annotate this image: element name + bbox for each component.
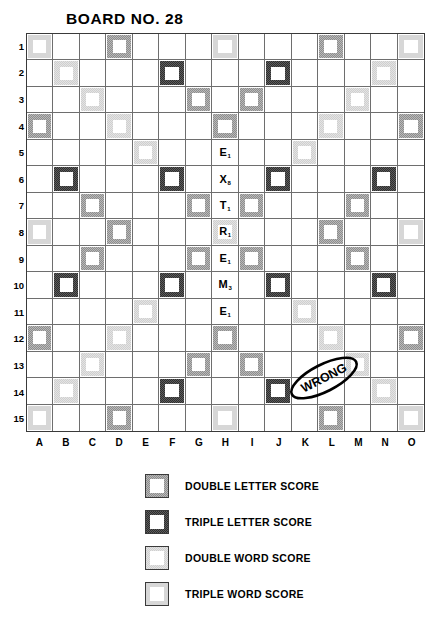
board-cell-F3[interactable]	[159, 87, 185, 113]
board-cell-J9[interactable]	[265, 246, 291, 272]
board-cell-D4[interactable]	[106, 113, 132, 139]
board-cell-K14[interactable]	[292, 378, 318, 404]
board-cell-E5[interactable]	[133, 140, 159, 166]
board-cell-F5[interactable]	[159, 140, 185, 166]
board-cell-M14[interactable]	[345, 378, 371, 404]
board-cell-F7[interactable]	[159, 193, 185, 219]
board-cell-L1[interactable]	[318, 34, 344, 60]
board-cell-F10[interactable]	[159, 272, 185, 298]
letter-tile-H9[interactable]: E1	[219, 253, 230, 264]
board-cell-C7[interactable]	[80, 193, 106, 219]
board-cell-F2[interactable]	[159, 60, 185, 86]
board-cell-H15[interactable]	[212, 405, 238, 431]
board-cell-D14[interactable]	[106, 378, 132, 404]
board-cell-G4[interactable]	[186, 113, 212, 139]
board-cell-K7[interactable]	[292, 193, 318, 219]
board-cell-G12[interactable]	[186, 325, 212, 351]
board-cell-D3[interactable]	[106, 87, 132, 113]
board-cell-O8[interactable]	[398, 219, 424, 245]
board-cell-H1[interactable]	[212, 34, 238, 60]
board-cell-D6[interactable]	[106, 166, 132, 192]
board-cell-M7[interactable]	[345, 193, 371, 219]
board-cell-I15[interactable]	[239, 405, 265, 431]
board-cell-B11[interactable]	[53, 299, 79, 325]
board-cell-N8[interactable]	[371, 219, 397, 245]
board-cell-L12[interactable]	[318, 325, 344, 351]
board-cell-F9[interactable]	[159, 246, 185, 272]
board-cell-K11[interactable]	[292, 299, 318, 325]
board-cell-B2[interactable]	[53, 60, 79, 86]
board-cell-O2[interactable]	[398, 60, 424, 86]
board-cell-L11[interactable]	[318, 299, 344, 325]
board-grid[interactable]: E1X8T1R1E1M3E1	[26, 33, 425, 432]
board-cell-J3[interactable]	[265, 87, 291, 113]
board-cell-I14[interactable]	[239, 378, 265, 404]
board-cell-L15[interactable]	[318, 405, 344, 431]
board-cell-C3[interactable]	[80, 87, 106, 113]
board-cell-O1[interactable]	[398, 34, 424, 60]
board-cell-H9[interactable]: E1	[212, 246, 238, 272]
board-cell-A15[interactable]	[27, 405, 53, 431]
board-cell-O14[interactable]	[398, 378, 424, 404]
board-cell-F1[interactable]	[159, 34, 185, 60]
board-cell-F13[interactable]	[159, 352, 185, 378]
board-cell-J5[interactable]	[265, 140, 291, 166]
board-cell-K5[interactable]	[292, 140, 318, 166]
board-cell-B6[interactable]	[53, 166, 79, 192]
board-cell-K12[interactable]	[292, 325, 318, 351]
board-cell-O11[interactable]	[398, 299, 424, 325]
board-cell-L3[interactable]	[318, 87, 344, 113]
board-cell-E15[interactable]	[133, 405, 159, 431]
board-cell-M12[interactable]	[345, 325, 371, 351]
board-cell-M5[interactable]	[345, 140, 371, 166]
board-cell-I10[interactable]	[239, 272, 265, 298]
board-cell-E4[interactable]	[133, 113, 159, 139]
board-cell-D7[interactable]	[106, 193, 132, 219]
board-cell-N9[interactable]	[371, 246, 397, 272]
board-cell-K3[interactable]	[292, 87, 318, 113]
board-cell-O4[interactable]	[398, 113, 424, 139]
board-cell-N2[interactable]	[371, 60, 397, 86]
board-cell-M4[interactable]	[345, 113, 371, 139]
board-cell-J13[interactable]	[265, 352, 291, 378]
board-cell-H8[interactable]: R1	[212, 219, 238, 245]
board-cell-K2[interactable]	[292, 60, 318, 86]
board-cell-G15[interactable]	[186, 405, 212, 431]
board-cell-A12[interactable]	[27, 325, 53, 351]
board-cell-A5[interactable]	[27, 140, 53, 166]
board-cell-A4[interactable]	[27, 113, 53, 139]
board-cell-B3[interactable]	[53, 87, 79, 113]
board-cell-E1[interactable]	[133, 34, 159, 60]
board-cell-H4[interactable]	[212, 113, 238, 139]
board-cell-C14[interactable]	[80, 378, 106, 404]
board-cell-M6[interactable]	[345, 166, 371, 192]
board-cell-N11[interactable]	[371, 299, 397, 325]
board-cell-O15[interactable]	[398, 405, 424, 431]
board-cell-E11[interactable]	[133, 299, 159, 325]
board-cell-A13[interactable]	[27, 352, 53, 378]
board-cell-C6[interactable]	[80, 166, 106, 192]
board-cell-K1[interactable]	[292, 34, 318, 60]
board-cell-E14[interactable]	[133, 378, 159, 404]
board-cell-M11[interactable]	[345, 299, 371, 325]
board-cell-C5[interactable]	[80, 140, 106, 166]
board-cell-N5[interactable]	[371, 140, 397, 166]
board-cell-N7[interactable]	[371, 193, 397, 219]
board-cell-B1[interactable]	[53, 34, 79, 60]
board-cell-I6[interactable]	[239, 166, 265, 192]
letter-tile-H8[interactable]: R1	[219, 226, 231, 237]
board-cell-A7[interactable]	[27, 193, 53, 219]
board-cell-B15[interactable]	[53, 405, 79, 431]
board-cell-D15[interactable]	[106, 405, 132, 431]
board-cell-N13[interactable]	[371, 352, 397, 378]
board-cell-G13[interactable]	[186, 352, 212, 378]
board-cell-B8[interactable]	[53, 219, 79, 245]
board-cell-D9[interactable]	[106, 246, 132, 272]
board-cell-I1[interactable]	[239, 34, 265, 60]
board-cell-L10[interactable]	[318, 272, 344, 298]
board-cell-L2[interactable]	[318, 60, 344, 86]
board-cell-C12[interactable]	[80, 325, 106, 351]
board-cell-O9[interactable]	[398, 246, 424, 272]
board-cell-J14[interactable]	[265, 378, 291, 404]
board-cell-C11[interactable]	[80, 299, 106, 325]
